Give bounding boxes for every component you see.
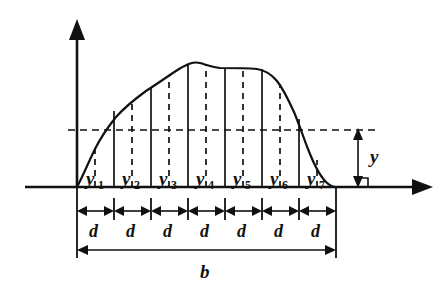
ordinate-label-6-base: y	[268, 168, 279, 189]
strip-dim-arrow-left-1-icon	[77, 206, 87, 216]
strip-width-dim-2: d	[114, 206, 151, 241]
strip-width-label-3: d	[163, 221, 173, 241]
strip-width-label-2: d	[126, 221, 136, 241]
strip-width-dim-3: d	[151, 206, 188, 241]
strip-width-dim-7: d	[299, 206, 336, 241]
strip-dim-arrow-left-3-icon	[151, 206, 161, 216]
strip-width-dim-1: d	[77, 206, 114, 241]
total-base-label: b	[200, 261, 210, 282]
mean-height-label: y	[368, 146, 379, 167]
strip-dim-arrow-left-6-icon	[262, 206, 272, 216]
ordinate-labels: y 1 y 2 y 3 y 4 y 5 y 6	[84, 168, 325, 192]
strip-width-label-6: d	[274, 221, 284, 241]
strip-width-dim-5: d	[225, 206, 262, 241]
ordinate-label-4: y 4	[194, 168, 214, 192]
ordinate-label-7-base: y	[305, 168, 316, 189]
ordinate-label-3-base: y	[157, 168, 168, 189]
strip-width-label-4: d	[200, 221, 210, 241]
y-axis-arrowhead-icon	[69, 19, 85, 40]
ordinate-label-3: y 3	[157, 168, 177, 192]
x-axis-arrowhead-icon	[412, 179, 433, 195]
ordinate-label-1: y 1	[84, 168, 104, 192]
strip-dim-arrow-right-7-icon	[326, 206, 336, 216]
ordinate-label-7: y 7	[305, 168, 325, 192]
strip-width-label-1: d	[89, 221, 99, 241]
strip-dim-arrow-right-1-icon	[104, 206, 114, 216]
ordinate-label-1-sub: 1	[98, 178, 104, 192]
ordinate-label-7-sub: 7	[319, 178, 325, 192]
ordinate-label-4-sub: 4	[208, 178, 214, 192]
ordinate-label-6-sub: 6	[282, 178, 288, 192]
strip-dim-arrow-left-4-icon	[188, 206, 198, 216]
mid-ordinate-rule-figure: y 1 y 2 y 3 y 4 y 5 y 6	[0, 0, 442, 291]
strip-width-dim-4: d	[188, 206, 225, 241]
strip-dim-arrow-left-7-icon	[299, 206, 309, 216]
strip-width-label-5: d	[237, 221, 247, 241]
strip-dim-arrow-left-2-icon	[114, 206, 124, 216]
ordinate-label-5-sub: 5	[245, 178, 251, 192]
total-base-arrow-right-icon	[325, 245, 336, 255]
strip-dim-arrow-left-5-icon	[225, 206, 235, 216]
ordinate-label-3-sub: 3	[171, 178, 177, 192]
ordinate-label-2: y 2	[120, 168, 140, 192]
ordinate-label-5-base: y	[231, 168, 242, 189]
strip-dim-arrow-right-3-icon	[178, 206, 188, 216]
strip-dim-arrow-right-6-icon	[289, 206, 299, 216]
total-base-arrow-left-icon	[77, 245, 88, 255]
ordinate-label-2-sub: 2	[134, 178, 140, 192]
ordinate-label-6: y 6	[268, 168, 288, 192]
ordinate-label-2-base: y	[120, 168, 131, 189]
total-base-dimension: b	[77, 245, 336, 282]
ordinate-label-1-base: y	[84, 168, 95, 189]
strip-dim-arrow-right-2-icon	[141, 206, 151, 216]
ordinate-label-4-base: y	[194, 168, 205, 189]
strip-width-dim-6: d	[262, 206, 299, 241]
strip-width-label-7: d	[311, 221, 321, 241]
area-curve	[77, 62, 336, 187]
strip-dim-arrow-right-5-icon	[252, 206, 262, 216]
strip-width-dimensions: d d d d	[77, 206, 336, 241]
diagram-canvas: y 1 y 2 y 3 y 4 y 5 y 6	[0, 0, 442, 291]
ordinate-label-5: y 5	[231, 168, 251, 192]
strip-dim-arrow-right-4-icon	[215, 206, 225, 216]
mean-height-dimension: y	[353, 128, 379, 188]
